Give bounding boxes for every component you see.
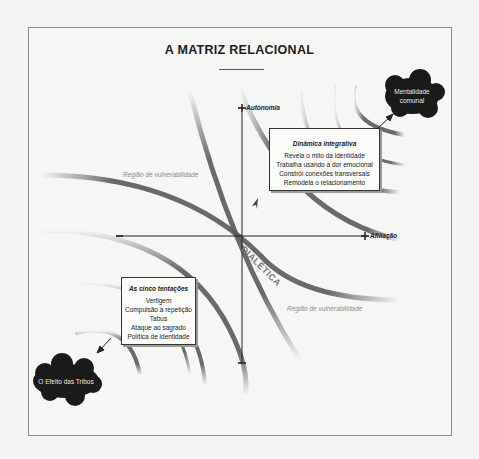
five-temptations-box: As cinco tentações Vertigem Compulsão à … — [121, 277, 196, 345]
list-item: Revela o mito da identidade — [270, 151, 379, 160]
temptations-box-title: As cinco tentações — [122, 285, 195, 292]
region-label-lower-right: Região de vulnerabilidade — [287, 305, 362, 312]
integrative-box-title: Dinâmica integrativa — [270, 140, 379, 147]
list-item: Trabalha usando a dor emocional — [270, 160, 379, 169]
list-item: Vertigem — [122, 296, 195, 305]
cloud-label-efeito-das-tribos: O Efeito das Tribos — [30, 377, 102, 386]
page-title: A MATRIZ RELACIONAL — [0, 43, 479, 57]
list-item: Política de identidade — [122, 332, 195, 341]
list-item: Constrói conexões transversais — [270, 169, 379, 178]
title-divider — [219, 69, 264, 70]
list-item: Ataque ao sagrado — [122, 323, 195, 332]
cloud-label-line: comunal — [386, 96, 438, 105]
cloud-label-line: Mentalidade — [386, 87, 438, 96]
list-item: Tabus — [122, 314, 195, 323]
axis-label-autonomia: Autonomia — [246, 104, 280, 111]
center-arrow-icon — [252, 198, 258, 209]
list-item: Remodela o relacionamento — [270, 178, 379, 187]
integrative-dynamics-box: Dinâmica integrativa Revela o mito da id… — [269, 128, 380, 191]
axis-label-afiliacao: Afiliação — [370, 232, 397, 239]
list-item: Compulsão à repetição — [122, 305, 195, 314]
region-label-upper-left: Região de vulnerabilidade — [123, 171, 198, 178]
cloud-label-mentalidade-comunal: Mentalidade comunal — [386, 87, 438, 105]
